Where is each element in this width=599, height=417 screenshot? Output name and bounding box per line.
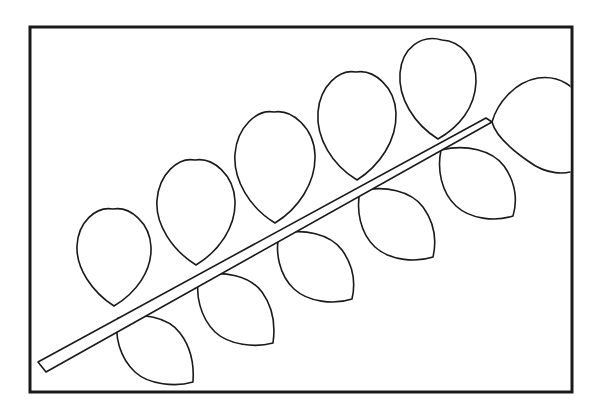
leaf-branch-illustration xyxy=(0,0,599,417)
artwork-canvas xyxy=(0,0,599,417)
